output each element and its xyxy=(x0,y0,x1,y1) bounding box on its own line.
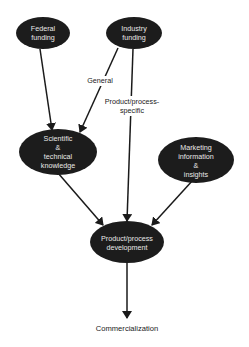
node-federal-funding: Federal funding xyxy=(16,17,70,49)
node-scientific-line3: technical xyxy=(44,152,73,161)
node-industry-funding: Industry funding xyxy=(106,17,162,49)
edge-federal-to-scientific xyxy=(40,49,52,130)
node-marketing-line1: Marketing xyxy=(180,143,212,152)
node-scientific-line1: Scientific xyxy=(44,134,73,143)
edge-scientific-to-product xyxy=(58,173,103,225)
node-marketing-line2: information xyxy=(178,152,214,161)
edge-label-specific-line1: Product/process- xyxy=(105,97,160,106)
node-federal-line2: funding xyxy=(31,33,55,42)
edge-label-general: General xyxy=(87,76,113,85)
node-marketing-line4: insights xyxy=(184,170,209,179)
edge-industry-to-scientific-general xyxy=(80,48,118,132)
node-industry-line2: funding xyxy=(122,33,146,42)
edge-marketing-to-product xyxy=(152,180,193,225)
edge-industry-to-product-specific xyxy=(127,49,133,221)
node-federal-line1: Federal xyxy=(31,24,56,33)
terminal-commercialization: Commercialization xyxy=(96,324,158,333)
node-scientific-technical-knowledge: Scientific & technical knowledge xyxy=(19,129,97,175)
edge-label-specific-line2: specific xyxy=(120,106,144,115)
node-marketing-information-insights: Marketing information & insights xyxy=(158,137,234,183)
flow-diagram: General Product/process- specific Federa… xyxy=(0,0,249,347)
node-product-line1: Product/process xyxy=(101,234,153,243)
node-scientific-line2: & xyxy=(56,143,61,152)
node-product-process-development: Product/process development xyxy=(90,221,164,263)
node-industry-line1: Industry xyxy=(121,24,147,33)
node-scientific-line4: knowledge xyxy=(41,161,75,170)
node-product-line2: development xyxy=(106,243,147,252)
node-marketing-line3: & xyxy=(194,161,199,170)
